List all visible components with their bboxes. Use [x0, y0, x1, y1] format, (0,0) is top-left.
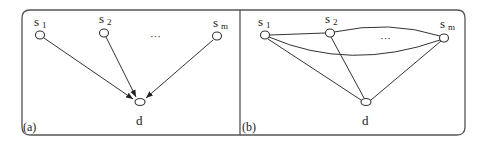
- panel-b: s1 s2 sm ··· d (b): [242, 11, 455, 134]
- label-a-d: d: [136, 113, 143, 128]
- edge-b-s1-sm: [269, 37, 440, 55]
- node-a-s1: [36, 31, 45, 39]
- node-b-sm: [440, 34, 449, 42]
- node-b-s2: [326, 29, 335, 37]
- panel-a: s1 s2 sm ··· d (a): [23, 11, 228, 134]
- edge-b-s1-s2: [270, 33, 325, 35]
- edge-a-sm-d: [146, 40, 213, 98]
- edge-b-s1-d: [268, 39, 361, 100]
- panel-tag-a: (a): [23, 120, 36, 134]
- ellipsis-a: ···: [150, 30, 161, 42]
- edge-a-s2-d: [106, 37, 136, 97]
- node-b-s1: [261, 31, 270, 39]
- figure-frame: [22, 10, 465, 135]
- edge-a-s1-d: [44, 38, 133, 99]
- node-a-s2: [100, 29, 109, 37]
- label-a-s2: s2: [99, 11, 112, 27]
- graph-figure: s1 s2 sm ··· d (a): [0, 0, 480, 144]
- panel-tag-b: (b): [242, 120, 256, 134]
- node-a-d: [135, 99, 145, 106]
- ellipsis-b: ···: [380, 32, 391, 44]
- label-b-d: d: [362, 113, 369, 128]
- label-a-s1: s1: [34, 14, 47, 30]
- label-b-s2: s2: [325, 11, 338, 27]
- edge-b-s2-d: [331, 37, 364, 98]
- label-a-sm: sm: [213, 15, 228, 31]
- label-b-s1: s1: [258, 14, 271, 30]
- node-a-sm: [213, 32, 222, 40]
- node-b-d: [361, 99, 371, 106]
- label-b-sm: sm: [440, 16, 455, 32]
